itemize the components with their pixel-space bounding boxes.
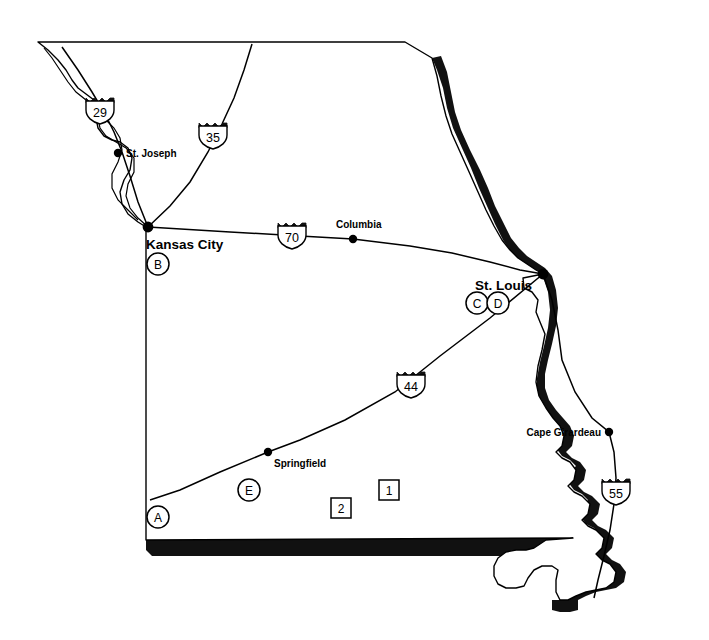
city-dot-kansas-city bbox=[143, 222, 154, 233]
city-dot-cape-girardeau bbox=[605, 428, 613, 436]
city-label-cape-girardeau: Cape Girardeau bbox=[527, 427, 601, 438]
circle-marker-label-e: E bbox=[245, 484, 253, 498]
city-label-kansas-city: Kansas City bbox=[146, 237, 224, 252]
shield-label-29: 29 bbox=[93, 106, 107, 120]
square-marker-label-1: 1 bbox=[386, 484, 393, 498]
city-label-st-louis: St. Louis bbox=[475, 278, 532, 293]
circle-marker-label-d: D bbox=[494, 297, 503, 311]
city-dot-st-joseph bbox=[114, 149, 122, 157]
circle-marker-label-b: B bbox=[154, 258, 162, 272]
city-dot-st-louis bbox=[538, 269, 549, 280]
shield-label-70: 70 bbox=[285, 231, 299, 245]
circle-marker-label-c: C bbox=[473, 297, 482, 311]
shield-label-44: 44 bbox=[404, 380, 418, 394]
bootheel-shadow bbox=[552, 600, 578, 612]
city-label-st-joseph: St. Joseph bbox=[126, 148, 177, 159]
city-dot-springfield bbox=[264, 448, 272, 456]
state-boundary bbox=[38, 42, 616, 600]
city-label-columbia: Columbia bbox=[336, 219, 382, 230]
circle-marker-b[interactable]: B bbox=[147, 253, 169, 275]
circle-marker-c[interactable]: C bbox=[466, 292, 488, 314]
shield-label-35: 35 bbox=[206, 131, 220, 145]
city-label-springfield: Springfield bbox=[274, 458, 326, 469]
city-dot-columbia bbox=[349, 235, 357, 243]
circle-marker-label-a: A bbox=[154, 511, 162, 525]
circle-marker-d[interactable]: D bbox=[487, 292, 509, 314]
shield-label-55: 55 bbox=[609, 487, 623, 501]
missouri-state-map: St. Joseph Kansas City Columbia St. Loui… bbox=[0, 0, 709, 640]
shield-i55: 55 bbox=[602, 479, 630, 505]
circle-marker-e[interactable]: E bbox=[238, 479, 260, 501]
missouri-map-container: St. Joseph Kansas City Columbia St. Loui… bbox=[0, 0, 709, 640]
square-marker-1[interactable]: 1 bbox=[379, 480, 399, 500]
square-marker-2[interactable]: 2 bbox=[331, 498, 351, 518]
square-marker-label-2: 2 bbox=[338, 502, 345, 516]
circle-marker-a[interactable]: A bbox=[147, 506, 169, 528]
